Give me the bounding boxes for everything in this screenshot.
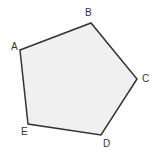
vertex-label-b: B [85,8,92,18]
geometry-figure: A B C D E [0,0,156,159]
pentagon-shape [20,23,137,135]
vertex-label-e: E [21,127,28,137]
vertex-label-c: C [142,74,149,84]
vertex-label-a: A [11,42,18,52]
vertex-label-d: D [103,139,110,149]
